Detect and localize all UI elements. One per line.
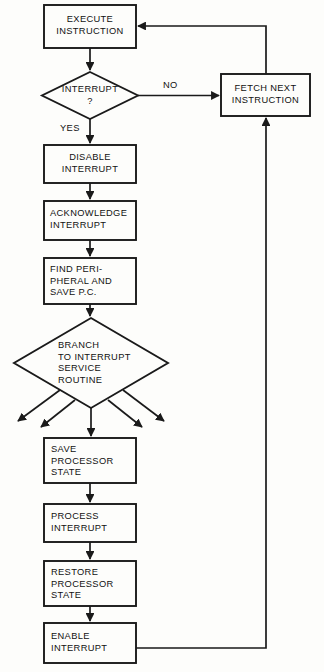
node-restore-processor-state[interactable]: [44, 561, 136, 606]
node-interrupt-decision[interactable]: [42, 72, 138, 119]
node-save-processor-state[interactable]: [44, 438, 136, 483]
node-find-peripheral-save-pc[interactable]: [44, 258, 136, 304]
node-enable-interrupt[interactable]: [44, 623, 136, 663]
node-fetch-next-instruction[interactable]: [221, 74, 310, 116]
node-branch-to-interrupt-service-routine[interactable]: [14, 318, 168, 408]
node-disable-interrupt[interactable]: [44, 145, 136, 183]
node-acknowledge-interrupt[interactable]: [44, 201, 136, 240]
edge-fetch-to-execute-return: [138, 26, 266, 74]
node-process-interrupt[interactable]: [44, 504, 136, 542]
edge-label-no: NO: [163, 80, 178, 91]
flowchart-canvas: EXECUTE INSTRUCTION INTERRUPT ? FETCH NE…: [0, 0, 324, 672]
node-execute-instruction[interactable]: [44, 5, 136, 48]
edge-label-yes: YES: [60, 123, 80, 134]
